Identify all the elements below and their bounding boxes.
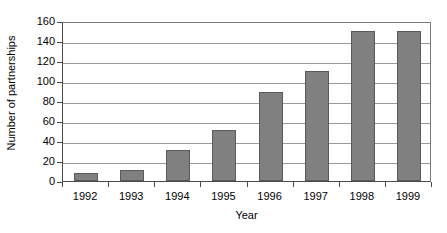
bar-1999[interactable] — [397, 31, 421, 181]
y-tick-label: 60 — [17, 116, 55, 127]
y-tick-label: 100 — [17, 76, 55, 87]
x-tick-mark — [385, 182, 386, 187]
bar-1992[interactable] — [74, 173, 98, 181]
x-tick-mark — [293, 182, 294, 187]
y-axis-title: Number of partnerships — [0, 0, 22, 185]
y-tick-label: 0 — [17, 176, 55, 187]
bars-layer — [63, 23, 430, 181]
x-axis-title: Year — [62, 209, 431, 221]
bar-slot — [63, 23, 109, 181]
x-tick-label-1993: 1993 — [108, 190, 154, 202]
x-tick-mark — [247, 182, 248, 187]
x-axis-title-label: Year — [235, 209, 257, 221]
x-tick-label-1992: 1992 — [62, 190, 108, 202]
y-tick-label: 140 — [17, 36, 55, 47]
bar-1994[interactable] — [166, 150, 190, 181]
y-tick-label: 80 — [17, 96, 55, 107]
y-axis-title-label: Number of partnerships — [5, 35, 17, 150]
y-tick-label: 40 — [17, 136, 55, 147]
y-tick-label: 20 — [17, 156, 55, 167]
bar-1996[interactable] — [259, 92, 283, 181]
bar-slot — [201, 23, 247, 181]
x-tick-label-1995: 1995 — [200, 190, 246, 202]
y-tick-label: 120 — [17, 56, 55, 67]
bar-slot — [155, 23, 201, 181]
bar-1997[interactable] — [305, 71, 329, 181]
bar-slot — [340, 23, 386, 181]
x-tick-mark — [62, 182, 63, 187]
bar-chart-figure: Number of partnerships 02040608010012014… — [0, 0, 447, 233]
x-tick-mark — [154, 182, 155, 187]
x-tick-mark — [339, 182, 340, 187]
x-tick-label-1994: 1994 — [154, 190, 200, 202]
bar-slot — [248, 23, 294, 181]
x-tick-label-1996: 1996 — [247, 190, 293, 202]
bar-slot — [109, 23, 155, 181]
x-tick-label-1997: 1997 — [293, 190, 339, 202]
x-tick-label-1999: 1999 — [385, 190, 431, 202]
plot-area — [62, 22, 431, 182]
bar-1995[interactable] — [212, 130, 236, 181]
x-tick-label-1998: 1998 — [339, 190, 385, 202]
bar-1993[interactable] — [120, 170, 144, 181]
bar-slot — [294, 23, 340, 181]
x-tick-mark — [108, 182, 109, 187]
bar-slot — [386, 23, 432, 181]
x-tick-mark — [200, 182, 201, 187]
y-tick-label: 160 — [17, 16, 55, 27]
x-tick-mark — [431, 182, 432, 187]
bar-1998[interactable] — [351, 31, 375, 181]
